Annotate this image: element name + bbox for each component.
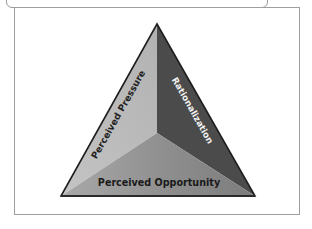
fraud-triangle-diagram: Perceived Pressure Rationalization Perce… xyxy=(0,0,312,229)
label-perceived-opportunity: Perceived Opportunity xyxy=(98,177,221,188)
